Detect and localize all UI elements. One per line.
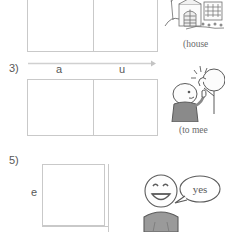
arrow-icon [28,59,156,68]
smiling-person-illustration: yes [137,170,225,232]
house-illustration [164,0,225,38]
table-column-divider [108,164,109,232]
column-header-u: u [119,64,125,75]
exercise-table-5[interactable] [42,164,105,226]
exercise-table-3[interactable] [27,79,158,136]
table-column-divider [93,80,94,135]
row-label-e: e [31,187,37,198]
illustration-caption-house: (house [183,40,208,50]
exercise-number-5: 5) [9,155,19,166]
speech-bubble-text: yes [193,183,208,195]
progress-arrow [28,54,156,63]
column-header-a: a [56,64,62,75]
exercise-table-top[interactable] [27,0,158,52]
people-greeting-illustration [164,58,225,122]
worksheet-page: 3) a u 5) e [0,0,225,232]
table-row-divider [42,226,108,227]
illustration-caption-meet: (to mee [179,126,208,136]
exercise-number-3: 3) [9,63,19,74]
table-column-divider [93,0,94,51]
